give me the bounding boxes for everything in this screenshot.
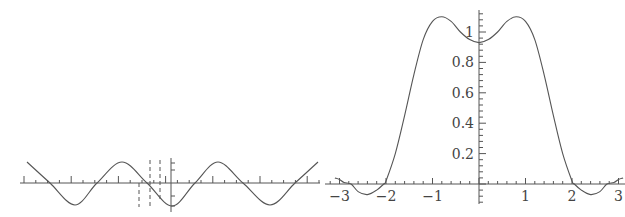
x-tick-label: −1	[422, 188, 443, 204]
y-tick-label: 1	[465, 24, 474, 40]
right-x-tick-labels: −3−2−1123	[329, 188, 623, 204]
x-tick-label: −2	[376, 188, 397, 204]
right-plot: −3−2−1123 0.20.40.60.81	[325, 10, 625, 204]
y-tick-label: 0.6	[452, 85, 474, 101]
x-tick-label: 3	[614, 188, 623, 204]
left-plot	[20, 158, 320, 212]
x-tick-label: 1	[521, 188, 530, 204]
left-y-ticks	[171, 163, 175, 206]
y-tick-label: 0.4	[452, 115, 474, 131]
y-tick-label: 0.8	[452, 54, 474, 70]
right-x-ticks	[330, 178, 618, 184]
left-sinusoid-curve	[27, 162, 318, 206]
x-tick-label: 2	[568, 188, 577, 204]
right-y-tick-labels: 0.20.40.60.81	[452, 24, 474, 162]
figure: −3−2−1123 0.20.40.60.81	[0, 0, 625, 217]
y-tick-label: 0.2	[452, 146, 474, 162]
x-tick-label: −3	[329, 188, 350, 204]
